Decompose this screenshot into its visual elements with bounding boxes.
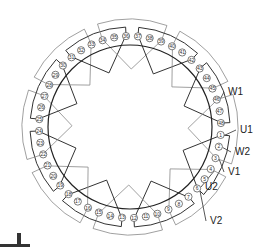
- coil-end-connection: [172, 31, 227, 88]
- slot-number: 42: [189, 57, 195, 63]
- slot-marker: 28: [46, 81, 53, 88]
- slot-marker: 6: [193, 185, 200, 192]
- slot-number: 15: [96, 209, 102, 215]
- slot-marker: 8: [175, 200, 182, 207]
- slot-marker: 12: [130, 214, 137, 221]
- slot-number: 47: [217, 108, 223, 114]
- slot-number: 3: [214, 155, 217, 161]
- slot-marker: 46: [213, 96, 220, 103]
- coil-side: [102, 39, 161, 69]
- slot-marker: 17: [74, 198, 81, 205]
- slot-marker: 33: [88, 41, 95, 48]
- slot-number: 24: [36, 128, 42, 134]
- terminal-lead: [200, 191, 206, 221]
- winding-diagram: 1234567891011121314151617181920212223242…: [0, 0, 262, 247]
- slot-marker: 20: [50, 172, 57, 179]
- slot-number: 23: [38, 140, 44, 146]
- slot-marker: 4: [207, 165, 214, 172]
- slot-marker: 11: [142, 213, 149, 220]
- slot-markers: 1234567891011121314151617181920212223242…: [35, 32, 224, 221]
- slot-number: 19: [58, 182, 64, 188]
- slot-number: 12: [131, 215, 137, 221]
- slot-number: 31: [69, 54, 75, 60]
- slot-number: 8: [178, 201, 181, 207]
- terminal-label-v2: V2: [210, 215, 223, 226]
- slot-number: 2: [217, 143, 220, 149]
- slot-marker: 13: [118, 214, 125, 221]
- slot-marker: 37: [134, 33, 141, 40]
- slot-number: 39: [158, 38, 164, 44]
- slot-marker: 32: [78, 47, 85, 54]
- slot-number: 30: [60, 62, 66, 68]
- slot-number: 37: [135, 33, 141, 39]
- slot-number: 18: [66, 191, 72, 197]
- slot-number: 21: [45, 162, 51, 168]
- slot-marker: 30: [59, 62, 66, 69]
- slot-number: 14: [108, 213, 114, 219]
- slot-marker: 40: [168, 43, 175, 50]
- stator-inner-circle: [48, 45, 212, 209]
- slot-number: 27: [42, 93, 48, 99]
- slot-number: 16: [85, 205, 91, 211]
- slot-number: 45: [210, 85, 216, 91]
- terminal-label-u1: U1: [240, 124, 253, 135]
- slot-number: 7: [187, 194, 190, 200]
- slot-marker: 35: [111, 34, 118, 41]
- slot-marker: 15: [95, 209, 102, 216]
- slot-number: 41: [179, 49, 185, 55]
- slot-marker: 45: [209, 85, 216, 92]
- slot-number: 32: [78, 47, 84, 53]
- slot-marker: 36: [122, 32, 129, 39]
- slot-marker: 29: [52, 71, 59, 78]
- slot-marker: 3: [212, 155, 219, 162]
- slot-number: 9: [167, 206, 170, 212]
- coil-group: [22, 19, 238, 235]
- slot-marker: 22: [40, 151, 47, 158]
- slot-number: 22: [40, 151, 46, 157]
- slot-marker: 1: [217, 131, 224, 138]
- slot-number: 35: [111, 34, 117, 40]
- slot-number: 6: [196, 185, 199, 191]
- slot-marker: 43: [196, 65, 203, 72]
- terminal-lead: [225, 130, 236, 135]
- slot-marker: 34: [99, 37, 106, 44]
- slot-marker: 38: [146, 35, 153, 42]
- slot-marker: 25: [36, 115, 43, 122]
- slot-number: 29: [53, 72, 59, 78]
- slot-number: 13: [119, 214, 125, 220]
- slot-number: 28: [47, 82, 53, 88]
- slot-marker: 27: [41, 92, 48, 99]
- slot-marker: 21: [44, 162, 51, 169]
- slot-number: 1: [219, 132, 222, 138]
- slot-number: 38: [147, 35, 153, 41]
- slot-marker: 7: [185, 193, 192, 200]
- coil-side: [188, 99, 218, 158]
- slot-number: 10: [155, 211, 161, 217]
- slot-number: 26: [38, 104, 44, 110]
- slot-number: 48: [218, 120, 224, 126]
- coil-side: [42, 96, 72, 155]
- slot-marker: 10: [154, 210, 161, 217]
- terminal-label-w2: W2: [235, 146, 250, 157]
- slot-marker: 39: [158, 38, 165, 45]
- slot-marker: 41: [179, 49, 186, 56]
- slot-number: 46: [214, 96, 220, 102]
- slot-marker: 24: [35, 127, 42, 134]
- slot-marker: 16: [84, 204, 91, 211]
- slot-marker: 19: [57, 182, 64, 189]
- slot-number: 43: [197, 65, 203, 71]
- coil-end-connection: [32, 166, 87, 223]
- slot-number: 44: [204, 75, 210, 81]
- slot-marker: 14: [107, 212, 114, 219]
- slot-number: 40: [169, 43, 175, 49]
- slot-number: 11: [143, 213, 148, 219]
- slot-marker: 44: [203, 75, 210, 82]
- coil-side: [99, 185, 158, 215]
- slot-number: 25: [37, 116, 43, 122]
- terminal-label-v1: V1: [228, 166, 241, 177]
- slot-number: 34: [100, 37, 106, 43]
- slot-number: 20: [50, 173, 56, 179]
- slot-number: 17: [75, 198, 81, 204]
- terminal-label-u2: U2: [205, 181, 218, 192]
- slot-number: 36: [123, 33, 129, 39]
